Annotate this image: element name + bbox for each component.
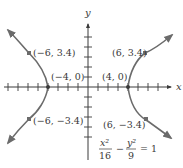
point-label: (6, 3.4) — [112, 47, 147, 58]
equation: x² 16 − y² 9 = 1 — [99, 137, 157, 161]
equation-term1-denominator: 16 — [99, 150, 111, 161]
point-label: (4, 0) — [102, 71, 128, 82]
point-marker — [27, 117, 31, 121]
y-axis: y — [84, 7, 92, 160]
hyperbola-plot: x y (−6, 3.4) (6, 3.4) — [0, 0, 183, 168]
equation-term1-numerator: x² — [100, 137, 109, 148]
equation-term2-numerator: y² — [126, 137, 136, 148]
x-axis: x — [4, 81, 182, 92]
point-label: (−4, 0) — [51, 71, 85, 82]
vertex-marker — [126, 85, 130, 89]
point-marker — [27, 51, 31, 55]
y-axis-label: y — [84, 7, 91, 18]
point-label: (−6, 3.4) — [33, 47, 76, 58]
point-labels: (−6, 3.4) (6, 3.4) (−4, 0) (4, 0) (−6, −… — [33, 47, 147, 130]
x-axis-label: x — [176, 81, 182, 92]
point-label: (6, −3.4) — [103, 119, 146, 130]
point-label: (−6, −3.4) — [33, 115, 84, 126]
vertex-marker — [46, 85, 50, 89]
equation-minus: − — [116, 143, 124, 154]
equation-rhs: = 1 — [140, 143, 157, 154]
equation-term2-denominator: 9 — [128, 150, 134, 161]
